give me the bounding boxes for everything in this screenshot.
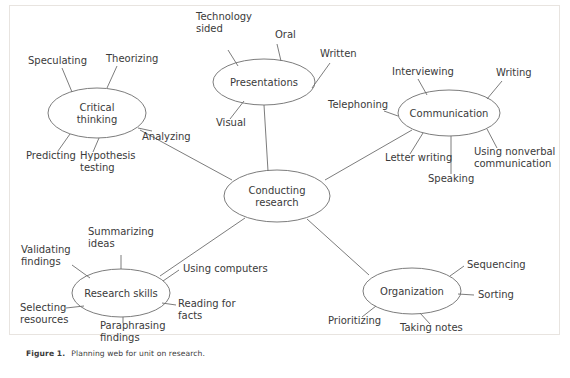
conducting-research-label-line1: Conducting [248, 185, 305, 196]
leaf-using-nonverbal-line2: communication [474, 158, 551, 169]
research-skills-label: Research skills [84, 288, 158, 299]
conducting-research-ellipse [224, 170, 330, 222]
leaf-using-computers-line1: Using computers [183, 263, 268, 274]
leaf-label-analyzing: Analyzing [142, 131, 191, 142]
leaf-line-theorizing [107, 66, 117, 88]
caption-text: Planning web for unit on research. [71, 349, 205, 358]
leaf-label-theorizing: Theorizing [105, 53, 158, 64]
leaf-using-nonverbal-line1: Using nonverbal [474, 146, 555, 157]
leaf-line-writing [487, 81, 502, 99]
leaf-speaking-line1: Speaking [428, 173, 474, 184]
leaf-label-writing: Writing [496, 67, 532, 78]
leaf-label-summarizing-ideas: Summarizingideas [88, 226, 154, 249]
planning-web-diagram: ConductingresearchCriticalthinkingPresen… [0, 0, 570, 378]
leaf-label-prioritizing: Prioritizing [328, 315, 381, 326]
caption-label: Figure 1. [26, 349, 65, 358]
leaf-label-using-computers: Using computers [183, 263, 268, 274]
leaf-paraphrasing-findings-line2: findings [100, 332, 140, 343]
node-presentations: Presentations [213, 59, 315, 105]
presentations-label-line1: Presentations [230, 77, 298, 88]
organization-label-line1: Organization [380, 286, 444, 297]
leaf-paraphrasing-findings-line1: Paraphrasing [100, 320, 166, 331]
node-communication: Communication [398, 90, 500, 136]
leaf-line-oral [277, 44, 281, 61]
leaf-label-predicting: Predicting [26, 150, 76, 161]
leaf-sorting-line1: Sorting [478, 289, 514, 300]
leaf-reading-for-facts-line1: Reading for [178, 298, 236, 309]
leaf-reading-for-facts-line2: facts [178, 310, 202, 321]
leaf-label-written: Written [320, 48, 357, 59]
leaf-technology-sided-line2: sided [196, 23, 223, 34]
leaf-sequencing-line1: Sequencing [467, 259, 526, 270]
center-to-organization [307, 219, 369, 275]
leaf-label-selecting-resources: Selectingresources [20, 302, 68, 325]
leaf-label-sequencing: Sequencing [467, 259, 526, 270]
leaf-label-sorting: Sorting [478, 289, 514, 300]
leaf-interviewing-line1: Interviewing [392, 66, 454, 77]
leaf-label-technology-sided: Technologysided [195, 11, 252, 34]
leaf-analyzing-line1: Analyzing [142, 131, 191, 142]
leaf-validating-findings-line1: Validating [21, 244, 71, 255]
leaf-hypothesis-testing-line1: Hypothesis [80, 150, 136, 161]
leaf-validating-findings-line2: findings [21, 256, 61, 267]
leaf-label-paraphrasing-findings: Paraphrasingfindings [100, 320, 166, 343]
leaf-label-speculating: Speculating [28, 55, 87, 66]
node-research-skills: Research skills [72, 269, 170, 317]
leaf-theorizing-line1: Theorizing [105, 53, 158, 64]
leaf-prioritizing-line1: Prioritizing [328, 315, 381, 326]
leaf-letter-writing-line1: Letter writing [385, 152, 452, 163]
center-to-presentations [264, 105, 268, 171]
leaf-label-interviewing: Interviewing [392, 66, 454, 77]
leaf-label-telephoning: Telephoning [327, 99, 388, 110]
leaf-line-speculating [62, 68, 72, 92]
communication-label: Communication [410, 108, 489, 119]
leaf-technology-sided-line1: Technology [195, 11, 252, 22]
node-conducting-research: Conductingresearch [224, 170, 330, 222]
node-critical-thinking: Criticalthinking [48, 88, 146, 138]
presentations-label: Presentations [230, 77, 298, 88]
critical-thinking-label-line2: thinking [77, 114, 118, 125]
leaf-summarizing-ideas-line1: Summarizing [88, 226, 154, 237]
leaf-label-visual: Visual [216, 117, 246, 128]
leaf-line-using-computers [163, 270, 179, 281]
leaf-telephoning-line1: Telephoning [327, 99, 388, 110]
leaf-line-sequencing [450, 266, 464, 276]
leaf-line-predicting [58, 134, 70, 151]
leaf-selecting-resources-line2: resources [20, 314, 68, 325]
leaf-label-validating-findings: Validatingfindings [21, 244, 71, 267]
node-organization: Organization [363, 268, 461, 314]
leaf-written-line1: Written [320, 48, 357, 59]
leaf-label-speaking: Speaking [428, 173, 474, 184]
leaf-speculating-line1: Speculating [28, 55, 87, 66]
figure-caption: Figure 1.Planning web for unit on resear… [26, 349, 205, 358]
leaf-predicting-line1: Predicting [26, 150, 76, 161]
organization-label: Organization [380, 286, 444, 297]
leaf-line-letter-writing [410, 133, 423, 154]
communication-label-line1: Communication [410, 108, 489, 119]
leaf-writing-line1: Writing [496, 67, 532, 78]
critical-thinking-label: Criticalthinking [77, 102, 118, 125]
figure-page: ConductingresearchCriticalthinkingPresen… [0, 0, 570, 378]
critical-thinking-label-line1: Critical [80, 102, 115, 113]
leaf-visual-line1: Visual [216, 117, 246, 128]
leaf-label-hypothesis-testing: Hypothesistesting [80, 150, 136, 173]
leaf-line-telephoning [384, 111, 398, 116]
leaf-selecting-resources-line1: Selecting [20, 302, 66, 313]
conducting-research-label: Conductingresearch [248, 185, 305, 208]
node-ellipses: ConductingresearchCriticalthinkingPresen… [48, 59, 500, 317]
leaf-hypothesis-testing-line2: testing [80, 162, 115, 173]
leaf-taking-notes-line1: Taking notes [399, 322, 463, 333]
leaf-label-letter-writing: Letter writing [385, 152, 452, 163]
leaf-oral-line1: Oral [275, 29, 296, 40]
leaf-label-using-nonverbal: Using nonverbalcommunication [474, 146, 555, 169]
critical-thinking-ellipse [48, 88, 146, 138]
leaf-label-taking-notes: Taking notes [399, 322, 463, 333]
leaf-label-reading-for-facts: Reading forfacts [178, 298, 236, 321]
leaf-summarizing-ideas-line2: ideas [88, 238, 115, 249]
research-skills-label-line1: Research skills [84, 288, 158, 299]
leaf-label-oral: Oral [275, 29, 296, 40]
conducting-research-label-line2: research [255, 197, 298, 208]
